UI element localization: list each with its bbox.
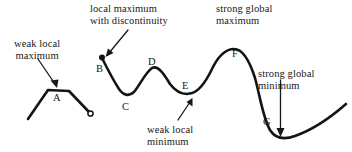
annotation-local-maximum-with-discontinuity: local maximum with discontinuity — [90, 3, 168, 26]
point-label-E: E — [182, 80, 188, 91]
smooth-function-curve — [99, 49, 346, 138]
annotation-weak-local-maximum: weak local maximum — [14, 38, 60, 61]
point-label-C: C — [122, 101, 129, 112]
arrow-shaft-local-maximum-discontinuity — [109, 30, 128, 53]
annotation-local-maximum-with-discontinuity-line2: with discontinuity — [90, 15, 168, 27]
annotation-weak-local-maximum-line1: weak local — [14, 38, 60, 50]
annotation-strong-global-maximum: strong global maximum — [216, 3, 272, 26]
point-label-A: A — [53, 92, 61, 103]
annotation-arrows — [38, 30, 285, 137]
annotation-weak-local-minimum-line1: weak local — [147, 124, 193, 136]
open-endpoint-circle-icon — [88, 111, 93, 116]
annotation-weak-local-minimum: weak local minimum — [147, 124, 193, 147]
point-label-B: B — [96, 63, 103, 74]
annotation-strong-global-maximum-line1: strong global — [216, 3, 272, 15]
point-label-D: D — [148, 56, 156, 67]
annotation-strong-global-minimum-line2: minimum — [258, 80, 314, 92]
annotation-strong-global-maximum-line2: maximum — [216, 15, 272, 27]
arrow-head-weak-local-maximum — [51, 80, 59, 89]
annotation-strong-global-minimum-line1: strong global — [258, 68, 314, 80]
figure-canvas: weak local maximum local maximum with di… — [0, 0, 352, 152]
annotation-strong-global-minimum: strong global minimum — [258, 68, 314, 91]
annotation-weak-local-maximum-line2: maximum — [14, 50, 60, 62]
annotation-weak-local-minimum-line2: minimum — [147, 136, 193, 148]
arrow-shaft-weak-local-minimum — [178, 102, 190, 120]
point-label-F: F — [232, 48, 238, 59]
discontinuity-dot-icon — [99, 55, 105, 61]
annotation-local-maximum-with-discontinuity-line1: local maximum — [90, 3, 168, 15]
curve-BCDEFG-path — [102, 49, 346, 138]
arrow-shaft-weak-local-maximum — [38, 59, 55, 84]
point-label-G: G — [263, 116, 271, 127]
